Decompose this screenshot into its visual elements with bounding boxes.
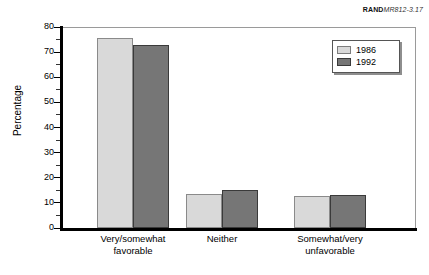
y-tick-label: 0 (10, 223, 54, 232)
y-tick-label: 10 (10, 198, 54, 207)
y-tick-label: 70 (10, 47, 54, 56)
x-category-label-2: Neither (162, 233, 282, 245)
y-tick-minor (56, 89, 60, 90)
y-tick-minor (56, 165, 60, 166)
legend-item-1986: 1986 (337, 44, 395, 56)
x-axis-line (60, 228, 417, 231)
y-tick-major (54, 77, 60, 78)
figure-id-number: MR812-3.17 (383, 6, 423, 13)
x-category-line: favorable (73, 245, 193, 257)
x-category-line: unfavorable (270, 245, 390, 257)
y-tick-minor (56, 215, 60, 216)
bar-1992-2 (222, 190, 258, 228)
bar-1992-3 (330, 195, 366, 228)
x-category-line: Neither (162, 233, 282, 245)
y-axis-title: Percentage (12, 66, 23, 156)
y-tick-major (54, 152, 60, 153)
legend-label-1992: 1992 (356, 58, 376, 67)
legend-item-1992: 1992 (337, 56, 395, 68)
y-tick-label: 20 (10, 173, 54, 182)
bar-1992-1 (133, 45, 169, 228)
legend-swatch-1986 (337, 46, 351, 54)
bar-1986-1 (97, 38, 133, 228)
y-tick-label: 80 (10, 22, 54, 31)
y-tick-major (54, 202, 60, 203)
y-tick-major (54, 177, 60, 178)
y-tick-major (54, 102, 60, 103)
figure-id-prefix: RAND (363, 6, 384, 13)
figure-id: RANDMR812-3.17 (363, 6, 423, 13)
bar-1986-3 (294, 196, 330, 228)
legend-swatch-1992 (337, 58, 351, 66)
x-category-label-3: Somewhat/veryunfavorable (270, 233, 390, 256)
legend-label-1986: 1986 (356, 46, 376, 55)
y-tick-minor (56, 140, 60, 141)
bar-1986-2 (186, 194, 222, 228)
y-tick-major (54, 127, 60, 128)
y-tick-minor (56, 114, 60, 115)
y-tick-minor (56, 64, 60, 65)
chart-legend: 1986 1992 (332, 40, 400, 73)
y-tick-minor (56, 190, 60, 191)
x-category-line: Somewhat/very (270, 233, 390, 245)
y-tick-major (54, 52, 60, 53)
y-tick-minor (56, 39, 60, 40)
y-tick-major (54, 228, 60, 229)
y-tick-major (54, 27, 60, 28)
